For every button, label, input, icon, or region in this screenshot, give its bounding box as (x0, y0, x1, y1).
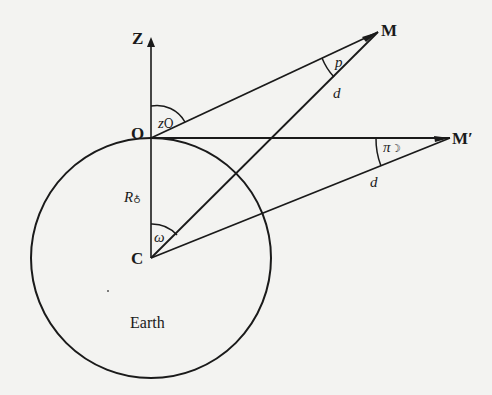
label-C: C (131, 250, 143, 267)
label-Z: Z (132, 30, 143, 47)
label-earth-radius: R♁ (124, 190, 140, 205)
label-angle-pi: π☽ (383, 140, 401, 155)
speck (107, 290, 109, 292)
line-C-Mprime (151, 138, 450, 258)
label-M: M (381, 22, 397, 39)
parallax-diagram: Z O C M M′ zO p d π☽ d R♁ ω Earth (0, 0, 492, 395)
label-earth: Earth (130, 315, 165, 331)
zenith-arrow-icon (147, 37, 155, 47)
moon-symbol-icon: ☽ (391, 142, 401, 155)
label-angle-zO: zO (158, 116, 174, 131)
label-angle-omega: ω (154, 230, 165, 245)
line-O-M (151, 32, 378, 138)
label-distance-d-2: d (370, 175, 378, 190)
label-O: O (131, 125, 144, 142)
earth-symbol-icon: ♁ (133, 193, 140, 204)
angle-zO-subscript: O (164, 117, 174, 131)
angle-pi-symbol: π (383, 139, 391, 155)
angle-arc-pi (376, 138, 381, 166)
diagram-lines (0, 0, 492, 395)
line-C-M (151, 32, 378, 258)
angle-arc-p (322, 58, 334, 77)
label-distance-d-1: d (333, 86, 341, 101)
radius-symbol: R (124, 189, 133, 205)
label-angle-p: p (335, 55, 343, 70)
label-M-prime: M′ (452, 130, 473, 147)
